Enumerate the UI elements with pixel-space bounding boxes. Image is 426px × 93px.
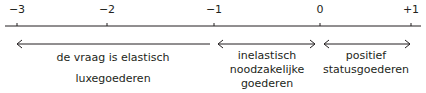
region-inelastic-line1: inelastisch xyxy=(230,49,305,63)
region-positive-line2: statusgoederen xyxy=(323,63,409,77)
arrow-inelastic xyxy=(218,40,315,48)
region-inelastic-line2: noodzakelijke xyxy=(230,63,305,77)
tick-label-plus-1: +1 xyxy=(403,3,419,16)
region-label-inelastic: inelastisch noodzakelijke goederen xyxy=(230,49,305,91)
region-label-elastic: de vraag is elastisch luxegoederen xyxy=(57,49,170,87)
region-elastic-line2: luxegoederen xyxy=(57,70,170,87)
region-positive-line1: positief xyxy=(323,49,409,63)
tick-label-0: 0 xyxy=(317,3,324,16)
region-elastic-line1: de vraag is elastisch xyxy=(57,49,170,66)
region-label-positive: positief statusgoederen xyxy=(323,49,409,77)
arrow-elastic xyxy=(17,40,210,48)
tick-label-minus-1: −1 xyxy=(206,3,222,16)
tick-label-minus-3: −3 xyxy=(9,3,25,16)
arrow-positive xyxy=(324,40,410,48)
tick-label-minus-2: −2 xyxy=(99,3,115,16)
region-inelastic-line3: goederen xyxy=(230,77,305,91)
